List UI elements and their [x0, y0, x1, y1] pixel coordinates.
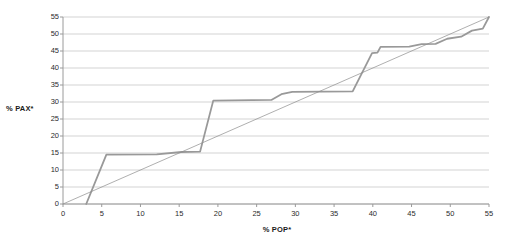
lorenz-curve-chart: 0510152025303540455055 05101520253035404… — [0, 0, 506, 244]
y-axis-tick-label: 45 — [25, 47, 59, 55]
x-axis-tick-label: 25 — [252, 210, 260, 218]
y-axis-tick-label: 35 — [25, 81, 59, 89]
lorenz-curve-line — [86, 17, 489, 204]
y-axis-title-text: % PAX* — [6, 104, 34, 113]
y-axis-tick-label: 20 — [25, 132, 59, 140]
x-axis-title: % POP* — [0, 225, 506, 234]
y-axis-title: % PAX* — [6, 104, 34, 113]
x-axis-tick-label: 35 — [330, 210, 338, 218]
x-axis-tick-label: 45 — [407, 210, 415, 218]
y-axis-tick-label: 50 — [25, 30, 59, 38]
x-axis-title-text: % POP* — [263, 225, 292, 234]
y-axis-tick-label: 55 — [25, 13, 59, 21]
y-axis-tick-label: 5 — [25, 183, 59, 191]
equality-line — [63, 17, 489, 204]
chart-series-layer — [63, 17, 489, 204]
y-axis-tick-label: 15 — [25, 149, 59, 157]
y-axis-tick-label: 0 — [25, 200, 59, 208]
x-axis-tick-label: 20 — [214, 210, 222, 218]
x-axis-tick-label: 30 — [291, 210, 299, 218]
x-axis-tick-label: 15 — [175, 210, 183, 218]
x-axis-tick-label: 5 — [100, 210, 104, 218]
x-axis-tick-label: 40 — [369, 210, 377, 218]
y-axis-tick-label: 40 — [25, 64, 59, 72]
y-axis-tick-labels: 0510152025303540455055 — [22, 0, 59, 244]
x-axis-tick-labels: 0510152025303540455055 — [0, 210, 506, 224]
plot-area — [63, 17, 489, 204]
x-axis-tick-label: 55 — [485, 210, 493, 218]
y-axis-tick-label: 10 — [25, 166, 59, 174]
x-axis-tick-label: 0 — [61, 210, 65, 218]
y-axis-tick-label: 25 — [25, 115, 59, 123]
x-axis-tick-label: 50 — [446, 210, 454, 218]
x-axis-tick-label: 10 — [136, 210, 144, 218]
